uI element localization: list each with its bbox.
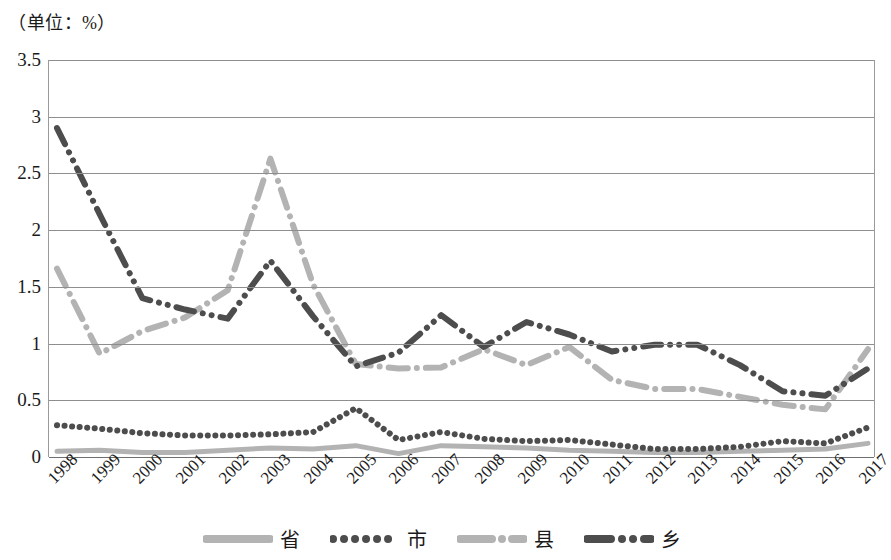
legend-item-乡[interactable]: 乡 [584,524,681,553]
legend-swatch-solid-line-light [203,532,273,546]
legend-item-县[interactable]: 县 [457,524,554,553]
plot-area: 00.511.522.533.5 [48,60,875,457]
legend-label: 市 [407,524,427,553]
series-line-县 [57,159,868,410]
legend-item-市[interactable]: 市 [330,524,427,553]
gridline [49,173,874,174]
legend-label: 乡 [661,524,681,553]
gridline [49,117,874,118]
y-axis-tick-label: 1.5 [17,276,41,298]
legend-swatch-dashdotdot-line-dark [584,532,654,546]
series-line-市 [57,408,868,449]
y-axis-tick-label: 3.5 [17,49,41,71]
legend-label: 县 [534,524,554,553]
legend-swatch-dotted-line-dark [330,532,400,546]
gridline [49,230,874,231]
legend-swatch-dashdot-line-light [457,532,527,546]
y-axis-tick-label: 0.5 [17,389,41,411]
legend-item-省[interactable]: 省 [203,524,300,553]
y-axis-tick-label: 1 [32,333,42,355]
y-axis-tick-label: 3 [32,106,42,128]
gridline [49,400,874,401]
y-axis-tick-label: 2 [32,219,42,241]
series-canvas [49,60,876,457]
chart-legend: 省市县乡 [0,524,883,553]
y-axis-tick-label: 2.5 [17,162,41,184]
gridline [49,344,874,345]
gridline [49,60,874,61]
unit-label: （单位：%） [8,8,116,34]
y-axis-tick-label: 0 [32,446,42,468]
x-axis-labels: 1998199920002001200220032004200520062007… [48,462,875,522]
gridline [49,287,874,288]
legend-label: 省 [280,524,300,553]
